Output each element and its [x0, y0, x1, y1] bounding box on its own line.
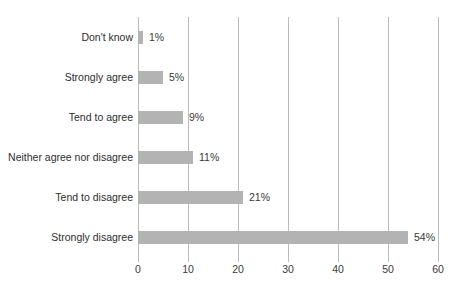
bar-4[interactable]: [138, 151, 193, 164]
gridline-20: [238, 17, 239, 257]
bar-5[interactable]: [138, 191, 243, 204]
bar-row: 11%: [138, 151, 438, 164]
x-axis-tick-labels: 0102030405060: [138, 263, 438, 279]
axis-line-zero: [138, 17, 139, 257]
x-tick-label-0: 0: [135, 263, 141, 275]
x-tick-label-10: 10: [182, 263, 194, 275]
bar-value-label-1: 1%: [149, 29, 164, 46]
x-tick-mark-10: [188, 257, 189, 262]
category-label-1: Don't know: [0, 31, 133, 44]
bar-row: 1%: [138, 31, 438, 44]
x-tick-mark-0: [138, 257, 139, 262]
bar-3[interactable]: [138, 111, 183, 124]
gridline-50: [388, 17, 389, 257]
bar-value-label-6: 54%: [414, 229, 435, 246]
bar-6[interactable]: [138, 231, 408, 244]
x-tick-label-20: 20: [232, 263, 244, 275]
horizontal-bar-chart: Don't knowStrongly agreeTend to agreeNei…: [0, 0, 452, 288]
category-axis-labels: Don't knowStrongly agreeTend to agreeNei…: [0, 17, 133, 257]
category-label-5: Tend to disagree: [0, 191, 133, 204]
x-tick-label-50: 50: [382, 263, 394, 275]
category-label-4: Neither agree nor disagree: [0, 151, 133, 164]
x-tick-label-60: 60: [432, 263, 444, 275]
x-tick-mark-40: [338, 257, 339, 262]
bar-2[interactable]: [138, 71, 163, 84]
x-tick-mark-50: [388, 257, 389, 262]
bar-row: 54%: [138, 231, 438, 244]
plot-area: 1%5%9%11%21%54%: [138, 17, 438, 257]
x-tick-mark-60: [438, 257, 439, 262]
bar-row: 21%: [138, 191, 438, 204]
x-tick-mark-30: [288, 257, 289, 262]
bar-row: 9%: [138, 111, 438, 124]
bar-1[interactable]: [138, 31, 143, 44]
gridline-10: [188, 17, 189, 257]
gridline-60: [438, 17, 439, 257]
bar-value-label-3: 9%: [189, 109, 204, 126]
bar-row: 5%: [138, 71, 438, 84]
gridline-30: [288, 17, 289, 257]
x-tick-label-30: 30: [282, 263, 294, 275]
bar-value-label-5: 21%: [249, 189, 270, 206]
x-tick-mark-20: [238, 257, 239, 262]
gridline-40: [338, 17, 339, 257]
bar-value-label-2: 5%: [169, 69, 184, 86]
x-tick-label-40: 40: [332, 263, 344, 275]
category-label-2: Strongly agree: [0, 71, 133, 84]
bar-value-label-4: 11%: [199, 149, 219, 166]
category-label-6: Strongly disagree: [0, 231, 133, 244]
category-label-3: Tend to agree: [0, 111, 133, 124]
